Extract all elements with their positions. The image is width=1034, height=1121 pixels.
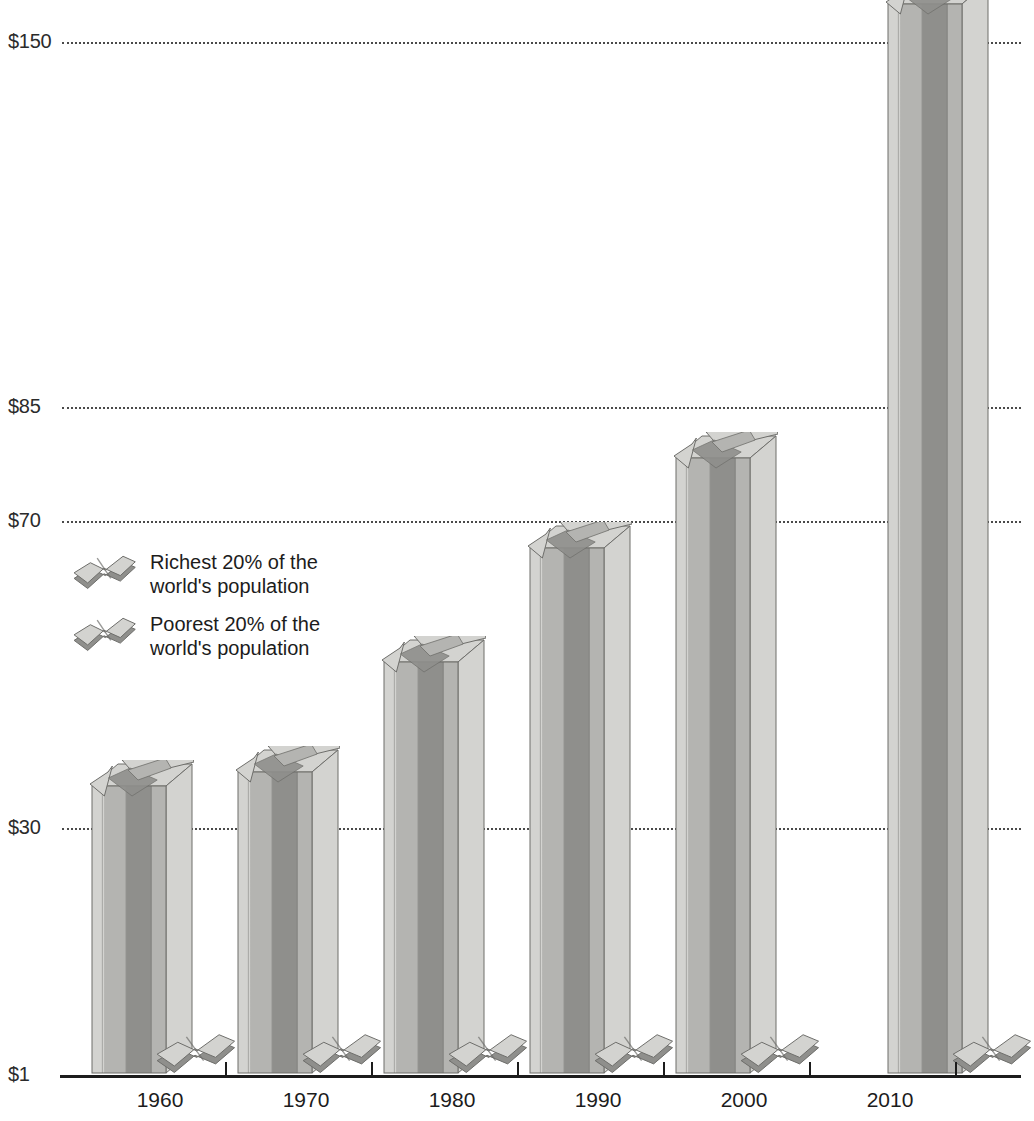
y-axis-label-85: $85 [8, 395, 58, 418]
y-axis-label-70: $70 [8, 509, 58, 532]
x-axis-tick [663, 1062, 665, 1076]
x-axis-tick [371, 1062, 373, 1076]
x-axis-baseline [60, 1075, 1021, 1078]
x-axis-label-2000: 2000 [721, 1088, 768, 1112]
x-axis-tick [955, 1062, 957, 1076]
gridline-85 [62, 407, 1021, 409]
x-axis-label-1970: 1970 [283, 1088, 330, 1112]
bar-poorest-2010 [948, 1025, 1034, 1079]
legend-label-richest: Richest 20% of theworld's population [150, 548, 318, 598]
dollar-sign-3d-icon [70, 548, 142, 598]
chart-legend: Richest 20% of theworld's population Poo… [70, 548, 370, 672]
bar-richest-1980 [380, 636, 486, 1077]
bar-richest-2010 [884, 0, 990, 1077]
bar-richest-1990 [526, 522, 632, 1077]
x-axis-label-1990: 1990 [575, 1088, 622, 1112]
y-axis-label-1: $1 [8, 1063, 58, 1086]
x-axis-tick [809, 1062, 811, 1076]
gridline-150 [62, 42, 1021, 44]
y-axis-label-30: $30 [8, 816, 58, 839]
legend-label-richest-line2: world's population [150, 575, 309, 597]
legend-label-poorest-line1: Poorest 20% of the [150, 613, 320, 635]
legend-label-richest-line1: Richest 20% of the [150, 551, 318, 573]
legend-label-poorest-line2: world's population [150, 637, 309, 659]
legend-item-poorest: Poorest 20% of theworld's population [70, 610, 370, 660]
dollar-sign-3d-icon [70, 610, 142, 660]
legend-item-richest: Richest 20% of theworld's population [70, 548, 370, 598]
x-axis-label-2010: 2010 [867, 1088, 914, 1112]
bar-richest-2000 [672, 432, 778, 1077]
legend-label-poorest: Poorest 20% of theworld's population [150, 610, 320, 660]
x-axis-label-1960: 1960 [137, 1088, 184, 1112]
x-axis-tick [225, 1062, 227, 1076]
x-axis-tick [517, 1062, 519, 1076]
x-axis-label-1980: 1980 [429, 1088, 476, 1112]
y-axis-label-150: $150 [8, 30, 58, 53]
